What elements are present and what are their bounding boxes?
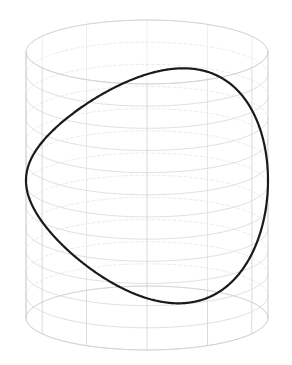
figure-eight-cylinder-plot	[0, 0, 292, 365]
cylinder-meridian-group	[26, 20, 268, 350]
figure-container: Figure-Eight Curve on a Cylinder A close…	[0, 0, 292, 365]
